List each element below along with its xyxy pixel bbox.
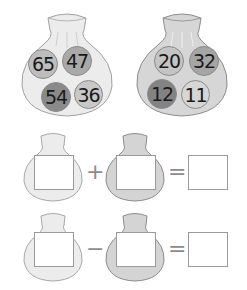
ball-65: 65	[28, 49, 58, 79]
ball-54: 54	[41, 82, 71, 112]
ball-47: 47	[62, 46, 92, 76]
equals-sign-2: =	[168, 238, 184, 260]
ball-36: 36	[74, 80, 103, 109]
answer-box-1b[interactable]	[116, 155, 156, 190]
minus-sign: −	[86, 238, 102, 260]
ball-32: 32	[189, 46, 219, 76]
answer-box-1a[interactable]	[34, 155, 74, 190]
equals-sign-1: =	[168, 161, 184, 183]
answer-box-2a[interactable]	[34, 232, 74, 267]
answer-box-2c[interactable]	[188, 232, 228, 267]
answer-box-2b[interactable]	[116, 232, 156, 267]
answer-box-1c[interactable]	[188, 155, 228, 190]
ball-20: 20	[154, 46, 184, 76]
ball-11: 11	[181, 80, 210, 109]
plus-sign: +	[86, 161, 102, 183]
ball-12: 12	[147, 79, 177, 109]
